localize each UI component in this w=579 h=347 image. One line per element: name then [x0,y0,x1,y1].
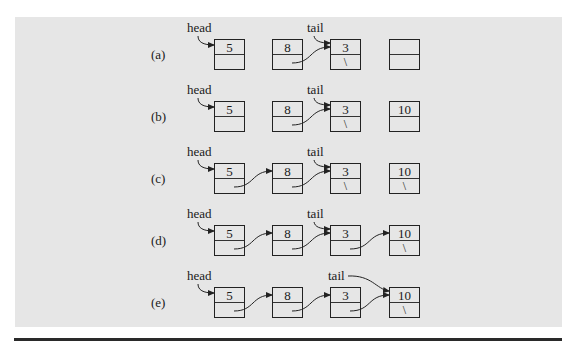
node-data: 10 [390,164,419,179]
node-data: 3 [331,40,360,55]
head-pointer-label: head [187,20,212,36]
list-node: 10\ [389,225,420,256]
node-next-pointer [215,55,244,70]
node-data: 3 [331,102,360,117]
head-pointer-label: head [187,206,212,222]
node-next-pointer [273,179,302,194]
node-next-pointer: \ [390,303,419,318]
row-label: (b) [151,109,166,125]
node-next-pointer [273,55,302,70]
head-pointer-label: head [187,144,212,160]
head-pointer-label: head [187,268,212,284]
list-node [389,39,420,70]
node-next-pointer [331,241,360,256]
node-next-pointer [273,241,302,256]
node-next-pointer [215,303,244,318]
bottom-rule [14,338,562,341]
list-node: 3 [330,225,361,256]
list-node: 3 [330,287,361,318]
node-data: 3 [331,226,360,241]
node-data: 3 [331,288,360,303]
node-data [390,40,419,55]
node-next-pointer [331,303,360,318]
list-node: 8 [272,225,303,256]
list-node: 8 [272,163,303,194]
tail-pointer-label: tail [307,20,324,36]
list-node: 5 [214,287,245,318]
node-data: 5 [215,164,244,179]
node-next-pointer [215,241,244,256]
list-node: 5 [214,39,245,70]
row-label: (e) [151,295,165,311]
list-node: 5 [214,163,245,194]
node-next-pointer [390,55,419,70]
node-data: 5 [215,288,244,303]
node-data: 10 [390,288,419,303]
list-node: 3\ [330,163,361,194]
list-node: 3\ [330,39,361,70]
node-next-pointer [215,117,244,132]
list-node: 8 [272,287,303,318]
list-node: 8 [272,39,303,70]
list-node: 10 [389,101,420,132]
node-data: 10 [390,102,419,117]
node-next-pointer: \ [390,241,419,256]
list-node: 5 [214,101,245,132]
node-data: 5 [215,102,244,117]
node-data: 3 [331,164,360,179]
node-next-pointer [273,303,302,318]
list-node: 5 [214,225,245,256]
list-node: 10\ [389,287,420,318]
node-next-pointer: \ [331,117,360,132]
head-pointer-label: head [187,82,212,98]
list-node: 3\ [330,101,361,132]
row-label: (a) [151,47,165,63]
tail-pointer-label: tail [307,82,324,98]
list-node: 8 [272,101,303,132]
node-data: 10 [390,226,419,241]
node-data: 8 [273,102,302,117]
node-data: 5 [215,40,244,55]
tail-pointer-label: tail [307,206,324,222]
node-next-pointer: \ [331,179,360,194]
node-data: 8 [273,226,302,241]
tail-pointer-label: tail [307,144,324,160]
node-data: 8 [273,164,302,179]
node-next-pointer: \ [331,55,360,70]
node-next-pointer [215,179,244,194]
node-data: 8 [273,40,302,55]
node-next-pointer: \ [390,179,419,194]
node-data: 8 [273,288,302,303]
node-next-pointer [390,117,419,132]
node-next-pointer [273,117,302,132]
tail-pointer-label: tail [328,268,345,284]
list-node: 10\ [389,163,420,194]
node-data: 5 [215,226,244,241]
row-label: (d) [151,233,166,249]
row-label: (c) [151,171,165,187]
